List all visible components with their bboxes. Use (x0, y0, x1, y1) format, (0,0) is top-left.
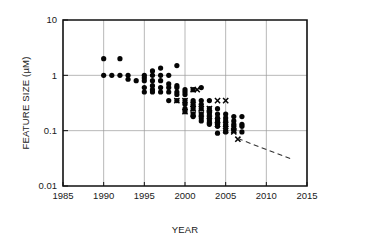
data-point-dot (158, 89, 163, 94)
x-tick-label: 2010 (256, 190, 277, 201)
data-point-dot (142, 78, 147, 83)
y-tick-label: 0.01 (39, 180, 58, 191)
data-point-dot (150, 73, 155, 78)
x-axis-title: YEAR (172, 224, 199, 235)
data-point-dot (182, 92, 187, 97)
trend-projection-line (238, 139, 291, 159)
x-tick-label: 1995 (134, 190, 155, 201)
x-tick-label: 2000 (174, 190, 195, 201)
x-tick-label: 2015 (296, 190, 317, 201)
x-tick-labels: 1985199019952000200520102015 (52, 190, 317, 201)
data-point-dot (109, 73, 114, 78)
data-point-dot (158, 73, 163, 78)
data-point-dot (158, 66, 163, 71)
feature-size-scatter-chart: 1985199019952000200520102015 1010.10.01 … (0, 0, 385, 243)
trend-line (238, 139, 291, 159)
data-point-dot (207, 98, 212, 103)
data-point-cross (215, 98, 220, 103)
data-point-dot (239, 129, 244, 134)
data-point-dot (101, 56, 106, 61)
x-tick-label: 2005 (215, 190, 236, 201)
data-point-dot (125, 77, 130, 82)
y-tick-label: 1 (52, 70, 57, 81)
data-point-dot (199, 118, 204, 123)
data-point-dot (174, 92, 179, 97)
y-tick-label: 0.1 (44, 125, 57, 136)
data-point-dot (142, 89, 147, 94)
data-point-dot (150, 89, 155, 94)
chart-figure: 1985199019952000200520102015 1010.10.01 … (0, 0, 385, 243)
data-point-dot (166, 89, 171, 94)
data-point-dot (166, 98, 171, 103)
data-point-dot (101, 73, 106, 78)
data-point-dot (239, 114, 244, 119)
data-point-dot (134, 78, 139, 83)
data-point-dot (239, 124, 244, 129)
data-point-dot (117, 73, 122, 78)
y-tick-labels: 1010.10.01 (39, 14, 58, 191)
data-point-dot (166, 73, 171, 78)
x-tick-label: 1990 (93, 190, 114, 201)
data-points (101, 56, 244, 142)
data-point-dot (117, 56, 122, 61)
data-point-dot (158, 78, 163, 83)
x-tick-label: 1985 (52, 190, 73, 201)
y-axis-title: FEATURE SIZE (µM) (20, 56, 31, 149)
data-point-dot (174, 63, 179, 68)
data-point-dot (215, 131, 220, 136)
data-point-dot (215, 106, 220, 111)
data-point-dot (150, 78, 155, 83)
y-tick-label: 10 (46, 14, 57, 25)
